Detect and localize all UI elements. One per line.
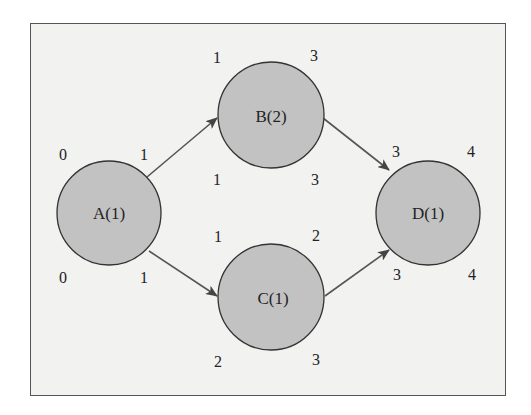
- node-b-late-start: 1: [213, 171, 221, 188]
- node-b-early-start: 1: [213, 49, 221, 66]
- node-c-early-start: 1: [214, 228, 222, 245]
- edge-b-to-d: [323, 118, 389, 170]
- node-b-label: B(2): [255, 107, 286, 126]
- node-a-early-start: 0: [59, 146, 67, 163]
- node-a-label: A(1): [93, 204, 125, 223]
- node-d-early-start: 3: [392, 143, 400, 160]
- node-b: B(2): [218, 62, 324, 168]
- node-c: C(1): [218, 244, 324, 350]
- network-diagram: A(1) 0 1 0 1 B(2) 1 3 1 3 C(1) 1 2 2 3 D…: [0, 0, 531, 415]
- node-d-late-finish: 4: [468, 266, 476, 283]
- node-d: D(1): [376, 161, 480, 265]
- edge-a-to-b: [147, 118, 217, 177]
- node-b-late-finish: 3: [311, 171, 319, 188]
- node-c-late-start: 2: [214, 353, 222, 370]
- node-d-late-start: 3: [393, 266, 401, 283]
- edge-a-to-c: [149, 251, 217, 296]
- node-c-label: C(1): [257, 289, 288, 308]
- node-d-early-finish: 4: [467, 143, 475, 160]
- node-a-late-finish: 1: [140, 269, 148, 286]
- node-d-label: D(1): [412, 204, 444, 223]
- edge-c-to-d: [325, 250, 389, 296]
- node-a-late-start: 0: [59, 269, 67, 286]
- node-c-late-finish: 3: [312, 351, 320, 368]
- node-a-early-finish: 1: [140, 146, 148, 163]
- node-b-early-finish: 3: [310, 47, 318, 64]
- node-c-early-finish: 2: [312, 227, 320, 244]
- node-a: A(1): [57, 161, 161, 265]
